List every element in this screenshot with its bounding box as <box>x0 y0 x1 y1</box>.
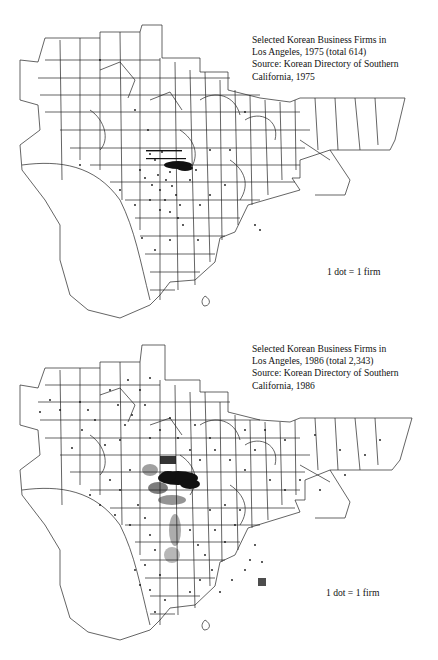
legend-1986: 1 dot = 1 firm <box>326 587 379 598</box>
caption-year-total: Los Angeles, 1975 (total 614) <box>252 46 399 58</box>
caption-source-cont: California, 1986 <box>252 380 399 392</box>
caption-source-cont: California, 1975 <box>252 71 399 83</box>
caption-year-total: Los Angeles, 1986 (total 2,343) <box>252 355 399 367</box>
caption-title-line: Selected Korean Business Firms in <box>252 34 399 46</box>
harbor-outline <box>202 296 209 306</box>
caption-title-line: Selected Korean Business Firms in <box>252 343 399 355</box>
firm-dots-1975 <box>79 59 261 251</box>
harbor-outline <box>202 620 209 630</box>
map-panel-1986: Selected Korean Business Firms in Los An… <box>0 330 438 660</box>
caption-source: Source: Korean Directory of Southern <box>252 367 399 379</box>
map-caption-1986: Selected Korean Business Firms in Los An… <box>252 343 399 392</box>
map-caption-1975: Selected Korean Business Firms in Los An… <box>252 34 399 83</box>
map-panel-1975: Selected Korean Business Firms in Los An… <box>0 0 438 330</box>
caption-source: Source: Korean Directory of Southern <box>252 58 399 70</box>
legend-1975: 1 dot = 1 firm <box>327 266 380 277</box>
